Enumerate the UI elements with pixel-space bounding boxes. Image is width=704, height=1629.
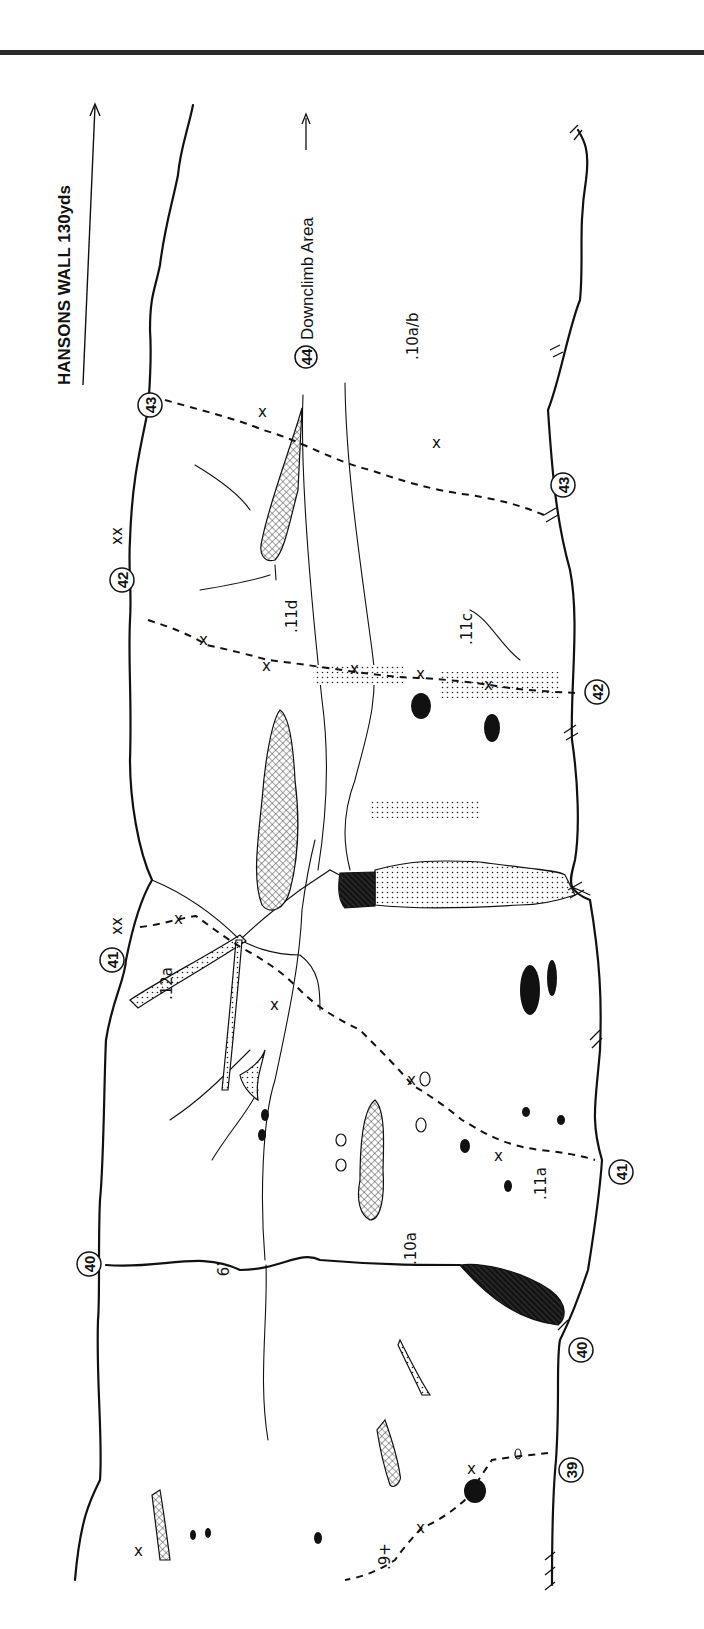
flake-low-1 bbox=[170, 1050, 250, 1120]
bolt-icon: x bbox=[350, 660, 359, 678]
wall-title-text: HANSONS WALL 130yds bbox=[55, 185, 74, 385]
dike-crosshatch-42 bbox=[257, 710, 298, 910]
dike-v bbox=[240, 1050, 265, 1100]
bolt-icon: x bbox=[432, 434, 441, 452]
anchor-icon: xx bbox=[108, 917, 126, 935]
svg-text:41: 41 bbox=[104, 952, 121, 969]
dark-patch-small bbox=[339, 872, 375, 908]
crack-long bbox=[302, 395, 326, 870]
hole bbox=[314, 1532, 322, 1544]
svg-text:40: 40 bbox=[573, 1342, 590, 1359]
crack-long-2 bbox=[345, 383, 374, 870]
hole bbox=[557, 1115, 565, 1125]
svg-text:39: 39 bbox=[563, 1462, 580, 1479]
svg-text:40: 40 bbox=[81, 1256, 98, 1273]
bolt-icon: x bbox=[416, 665, 425, 683]
bolt-icon: x bbox=[484, 676, 493, 694]
hole bbox=[520, 965, 540, 1015]
marker-41-top: 41 bbox=[100, 948, 124, 972]
hole bbox=[547, 960, 557, 996]
hole bbox=[504, 1180, 512, 1192]
marker-42-top: 42 bbox=[110, 568, 134, 592]
pocket bbox=[336, 1159, 346, 1171]
hole bbox=[190, 1530, 196, 1540]
marker-43-top: 43 bbox=[138, 393, 162, 417]
bolt-icon: x bbox=[174, 910, 183, 928]
pocket bbox=[420, 1072, 430, 1086]
pocket bbox=[416, 1118, 426, 1132]
wall-title: HANSONS WALL 130yds bbox=[55, 104, 100, 385]
dike-upper-low bbox=[398, 1340, 430, 1395]
bolt-icon: x bbox=[467, 1460, 476, 1478]
bolt-icon: x bbox=[270, 996, 279, 1014]
anchor-icon: xx bbox=[108, 527, 126, 545]
stipple-11c bbox=[440, 672, 560, 698]
bolt-icon: x bbox=[262, 657, 271, 675]
downclimb-label: 44 Downclimb Area bbox=[295, 114, 317, 368]
hole bbox=[460, 1139, 470, 1153]
crack-low bbox=[263, 1265, 268, 1440]
hole bbox=[205, 1528, 211, 1538]
topo-diagram: HANSONS WALL 130yds 44 Downclimb Area bbox=[0, 0, 704, 1629]
bolt-icon: x bbox=[407, 1071, 416, 1089]
flake-42 bbox=[200, 565, 276, 590]
dike-crosshatch-40 bbox=[358, 1100, 383, 1220]
marker-40-top: 40 bbox=[77, 1252, 101, 1276]
hole bbox=[411, 693, 431, 719]
dark-roof-40 bbox=[460, 1264, 564, 1325]
grade-41: .11a bbox=[532, 1167, 550, 1200]
flake-low-2 bbox=[212, 1090, 258, 1160]
svg-text:42: 42 bbox=[114, 572, 131, 589]
dike-12a bbox=[130, 935, 246, 1008]
hole bbox=[258, 1129, 266, 1141]
wall-bottom-edge bbox=[548, 130, 602, 1585]
route-43-line bbox=[165, 400, 544, 515]
grade-41-upper: .12a bbox=[158, 967, 176, 1000]
hole bbox=[484, 714, 500, 742]
wall-top-edge bbox=[75, 105, 193, 1580]
svg-text:43: 43 bbox=[555, 477, 572, 494]
bolt-icon: x bbox=[134, 1542, 143, 1560]
marker-40-bottom: 40 bbox=[569, 1338, 593, 1362]
marker-41-bottom: 41 bbox=[609, 1160, 633, 1184]
hole bbox=[464, 1479, 486, 1503]
bolt-icon: x bbox=[199, 631, 208, 649]
grade-42-upper: .11d bbox=[283, 600, 301, 633]
dike-dotted-low bbox=[375, 861, 575, 908]
crack-41b bbox=[240, 940, 320, 1010]
svg-text:43: 43 bbox=[142, 397, 159, 414]
pocket bbox=[336, 1134, 346, 1146]
dike-39b bbox=[152, 1490, 170, 1560]
svg-text:42: 42 bbox=[589, 684, 606, 701]
bolt-icon: x bbox=[494, 1147, 503, 1165]
grade-40-left: .9 bbox=[213, 1262, 231, 1276]
stipple-mid bbox=[370, 800, 480, 818]
flake-11c bbox=[470, 610, 520, 660]
marker-42-bottom: 42 bbox=[585, 680, 609, 704]
downclimb-area-text: Downclimb Area bbox=[298, 217, 317, 340]
ground-vegetation bbox=[544, 125, 602, 1590]
svg-text:41: 41 bbox=[613, 1164, 630, 1181]
marker-44: 44 bbox=[295, 346, 317, 368]
bolt-icon: x bbox=[258, 403, 267, 421]
hole bbox=[522, 1107, 530, 1117]
svg-text:44: 44 bbox=[298, 348, 315, 365]
grade-39: .9+ bbox=[376, 1543, 394, 1570]
flake-43 bbox=[195, 465, 250, 510]
bolt-icon: x bbox=[416, 1519, 425, 1537]
marker-43-bottom: 43 bbox=[551, 473, 575, 497]
hole bbox=[261, 1109, 269, 1121]
grade-43: .10a/b bbox=[404, 312, 422, 360]
grade-42: .11c bbox=[458, 613, 476, 645]
marker-39: 39 bbox=[559, 1458, 583, 1482]
grade-40: .10a bbox=[402, 1232, 420, 1265]
dike-39 bbox=[377, 1420, 400, 1486]
distance-arrow-line bbox=[83, 106, 95, 385]
